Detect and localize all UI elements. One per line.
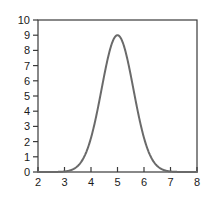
y-axis-tick-label: 4 — [24, 105, 30, 117]
x-axis-tick-label: 5 — [114, 176, 120, 188]
y-axis-tick-label: 2 — [24, 136, 30, 148]
data-curve-gaussian — [38, 35, 197, 172]
plot-frame — [38, 20, 197, 172]
x-axis-tick-label: 2 — [35, 176, 41, 188]
x-axis-tick-label: 8 — [194, 176, 200, 188]
bell-curve-plot: 0123456789102345678 — [0, 0, 211, 197]
y-axis-tick-label: 0 — [24, 166, 30, 178]
x-axis-tick-label: 4 — [88, 176, 94, 188]
y-axis-tick-label: 6 — [24, 75, 30, 87]
x-axis-tick-label: 7 — [167, 176, 173, 188]
x-axis-tick-label: 3 — [61, 176, 67, 188]
y-axis-tick-label: 1 — [24, 151, 30, 163]
y-axis-tick-label: 7 — [24, 60, 30, 72]
y-axis-tick-label: 8 — [24, 44, 30, 56]
chart-figure: 0123456789102345678 — [0, 0, 211, 197]
y-axis-tick-label: 3 — [24, 120, 30, 132]
y-axis-tick-label: 5 — [24, 90, 30, 102]
x-axis-tick-label: 6 — [141, 176, 147, 188]
y-axis-tick-label: 10 — [18, 14, 30, 26]
y-axis-tick-label: 9 — [24, 29, 30, 41]
